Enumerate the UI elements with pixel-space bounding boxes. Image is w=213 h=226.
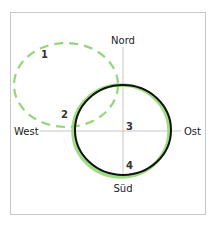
marker-3: 3 [126, 121, 133, 132]
label-east: Ost [184, 126, 201, 137]
diagram-frame [11, 13, 206, 215]
marker-4: 4 [126, 160, 133, 171]
label-west: West [14, 126, 39, 137]
marker-2: 2 [61, 109, 68, 120]
label-south: Süd [113, 183, 132, 194]
label-north: Nord [111, 35, 135, 46]
marker-1: 1 [41, 49, 48, 60]
compass-diagram: Nord Süd West Ost 1 2 3 4 [0, 0, 213, 226]
